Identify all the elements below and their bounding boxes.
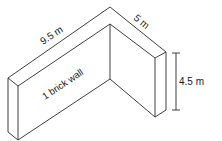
height-label: 4.5 m — [179, 76, 204, 87]
wall-diagram: 9.5 m 5 m 4.5 m 1 brick wall — [0, 0, 222, 141]
